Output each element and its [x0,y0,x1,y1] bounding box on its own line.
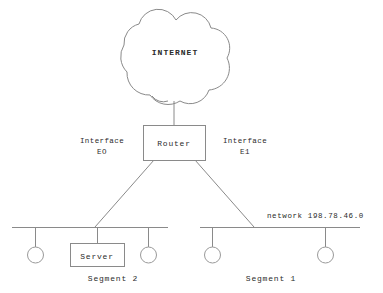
diagram-graphics [0,0,383,293]
interface-e1-label-line2: E1 [240,147,250,158]
server-label: Server [80,251,114,262]
interface-e0-label-line2: EO [97,147,107,158]
segment1-nodes [205,227,334,263]
segment2-host1-circle [28,247,44,263]
segment-2-label: Segment 2 [88,273,138,284]
segment1-host1-circle [205,247,221,263]
interface-e0-label-line1: Interface [80,136,124,147]
router-label: Router [157,138,191,149]
router-to-segment1-link [195,160,254,227]
segment2-host2-circle [141,247,157,263]
network-diagram-canvas: INTERNET Router Interface EO Interface E… [0,0,383,293]
segment-1-label: Segment 1 [246,273,296,284]
internet-cloud-label: INTERNET [152,47,198,58]
router-to-segment2-link [95,160,154,227]
segment1-host2-circle [318,247,334,263]
interface-e1-label-line1: Interface [223,136,267,147]
network-address-label: network 198.78.46.0 [267,211,364,222]
